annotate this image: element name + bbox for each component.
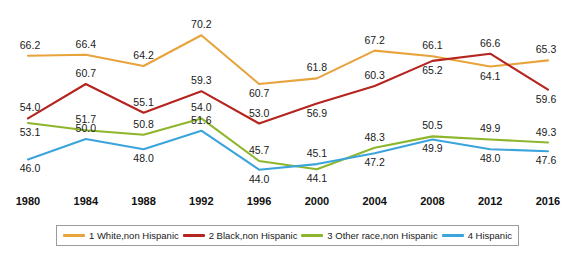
chart-legend: 1 White,non Hispanic2 Black,non Hispanic… <box>56 225 519 246</box>
x-axis-tick-label: 2016 <box>536 195 560 207</box>
data-label: 66.4 <box>76 38 97 50</box>
legend-swatch-icon <box>442 234 464 237</box>
data-label: 44.0 <box>249 173 270 185</box>
data-label: 54.0 <box>20 101 41 113</box>
series-line-4 <box>28 131 548 170</box>
x-axis-tick-label: 1980 <box>16 195 40 207</box>
data-label: 53.0 <box>249 107 270 119</box>
data-label: 49.3 <box>536 126 557 138</box>
x-axis-tick-label: 2012 <box>478 195 502 207</box>
data-label: 50.0 <box>76 122 97 134</box>
legend-item-4[interactable]: 4 Hispanic <box>442 230 512 241</box>
data-label: 45.1 <box>307 147 328 159</box>
data-label: 56.9 <box>307 107 328 119</box>
data-label: 47.2 <box>364 156 385 168</box>
data-label: 64.2 <box>133 49 154 61</box>
legend-item-label: 2 Black,non Hispanic <box>209 230 298 241</box>
data-label: 49.9 <box>480 122 501 134</box>
data-label: 65.2 <box>422 64 443 76</box>
data-label: 61.8 <box>307 61 328 73</box>
data-label: 67.2 <box>364 34 385 46</box>
x-axis-tick-label: 1984 <box>74 195 99 207</box>
data-label: 45.7 <box>249 144 270 156</box>
x-axis-tick-label: 1996 <box>247 195 271 207</box>
data-label: 48.0 <box>133 152 154 164</box>
data-label: 66.1 <box>422 39 443 51</box>
x-axis-tick-label: 2008 <box>420 195 444 207</box>
x-axis-tick-label: 1992 <box>189 195 213 207</box>
legend-item-label: 1 White,non Hispanic <box>89 230 179 241</box>
x-axis-tick-label: 2000 <box>305 195 329 207</box>
series-line-2 <box>28 54 548 124</box>
series-line-3 <box>28 118 548 169</box>
data-label: 48.0 <box>480 152 501 164</box>
legend-item-3[interactable]: 3 Other race,non Hispanic <box>301 230 437 241</box>
x-axis-tick-label: 1988 <box>131 195 155 207</box>
legend-item-2[interactable]: 2 Black,non Hispanic <box>183 230 298 241</box>
data-label: 64.1 <box>480 70 501 82</box>
data-label: 55.1 <box>133 96 154 108</box>
legend-item-label: 4 Hispanic <box>468 230 512 241</box>
data-label: 46.0 <box>20 162 41 174</box>
data-label: 47.6 <box>536 154 557 166</box>
data-label: 54.0 <box>191 101 212 113</box>
data-label: 65.3 <box>536 43 557 55</box>
legend-item-1[interactable]: 1 White,non Hispanic <box>63 230 179 241</box>
legend-swatch-icon <box>63 234 85 237</box>
x-axis-tick-label: 2004 <box>362 195 387 207</box>
data-label: 49.9 <box>422 142 443 154</box>
data-label: 59.6 <box>536 93 557 105</box>
data-label: 50.8 <box>133 118 154 130</box>
data-label: 60.7 <box>249 87 270 99</box>
data-label: 60.7 <box>76 67 97 79</box>
data-label: 51.6 <box>191 114 212 126</box>
data-label: 53.1 <box>20 126 41 138</box>
legend-item-label: 3 Other race,non Hispanic <box>327 230 437 241</box>
data-label: 66.2 <box>20 39 41 51</box>
data-label: 70.2 <box>191 18 212 30</box>
legend-swatch-icon <box>183 234 205 237</box>
data-label: 48.3 <box>364 131 385 143</box>
data-label: 66.6 <box>480 37 501 49</box>
data-label: 44.1 <box>307 172 328 184</box>
data-label: 60.3 <box>364 69 385 81</box>
chart-plot-area: 66.266.464.270.260.761.867.266.164.165.3… <box>0 0 575 254</box>
line-chart: 66.266.464.270.260.761.867.266.164.165.3… <box>0 0 575 254</box>
data-label: 59.3 <box>191 74 212 86</box>
data-label: 50.5 <box>422 119 443 131</box>
legend-swatch-icon <box>301 234 323 237</box>
series-line-1 <box>28 35 548 84</box>
